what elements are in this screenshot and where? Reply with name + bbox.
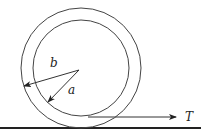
inner-circle <box>33 20 129 116</box>
label-t: T <box>185 110 194 124</box>
label-b: b <box>50 56 58 70</box>
label-a: a <box>68 83 75 97</box>
outer-circle <box>21 8 141 128</box>
spool-diagram: b a T <box>0 0 209 137</box>
